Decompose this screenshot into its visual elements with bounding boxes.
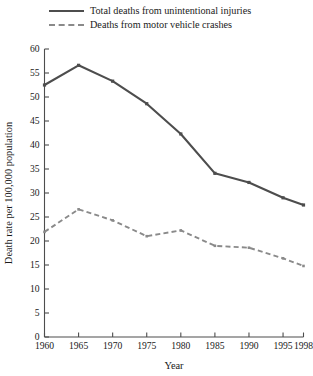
data-point-marker xyxy=(43,83,46,86)
y-tick-label: 45 xyxy=(30,115,40,126)
y-axis-title: Death rate per 100,000 population xyxy=(3,121,14,264)
line-chart-plot: 051015202530354045505560 196019651970197… xyxy=(0,0,313,376)
y-tick-label: 10 xyxy=(30,283,40,294)
data-point-marker xyxy=(302,203,305,206)
y-tick-label: 60 xyxy=(30,43,40,54)
data-line-total-deaths xyxy=(45,65,304,205)
data-point-marker xyxy=(302,265,305,268)
y-tick-label: 20 xyxy=(30,235,40,246)
y-tick-label: 35 xyxy=(30,163,40,174)
y-tick-label: 25 xyxy=(30,211,40,222)
data-point-marker xyxy=(213,172,216,175)
x-tick-label: 1998 xyxy=(294,340,313,351)
x-tick-label: 1960 xyxy=(35,340,54,351)
data-point-marker xyxy=(281,196,284,199)
x-tick-label: 1985 xyxy=(205,340,224,351)
data-point-marker xyxy=(247,181,250,184)
data-point-marker xyxy=(43,231,46,234)
y-tick-label: 40 xyxy=(30,139,40,150)
chart-figure: Total deaths from unintentional injuries… xyxy=(0,0,313,376)
data-point-marker xyxy=(179,132,182,135)
data-point-marker xyxy=(111,80,114,83)
x-tick-label: 1965 xyxy=(69,340,88,351)
y-axis-ticks: 051015202530354045505560 xyxy=(30,43,49,342)
y-tick-label: 5 xyxy=(35,307,40,318)
data-point-marker xyxy=(77,208,80,211)
x-axis-title: Year xyxy=(164,360,184,371)
data-point-marker xyxy=(282,257,285,260)
data-point-marker xyxy=(214,245,217,248)
data-point-marker xyxy=(145,235,148,238)
x-tick-label: 1980 xyxy=(171,340,190,351)
data-point-marker xyxy=(145,102,148,105)
x-tick-label: 1990 xyxy=(239,340,258,351)
data-line-motor-vehicle-crashes xyxy=(45,209,304,266)
y-tick-label: 30 xyxy=(30,187,40,198)
data-markers-total-deaths xyxy=(43,64,305,207)
x-tick-label: 1995 xyxy=(273,340,292,351)
y-tick-label: 15 xyxy=(30,259,40,270)
data-point-marker xyxy=(180,229,183,232)
data-point-marker xyxy=(77,64,80,67)
y-tick-label: 50 xyxy=(30,91,40,102)
x-tick-label: 1975 xyxy=(137,340,156,351)
y-tick-label: 55 xyxy=(30,67,40,78)
data-point-marker xyxy=(111,219,114,222)
data-markers-motor-vehicle-crashes xyxy=(43,208,305,267)
data-point-marker xyxy=(248,246,251,249)
x-tick-label: 1970 xyxy=(103,340,122,351)
x-axis-ticks: 196019651970197519801985199019951998 xyxy=(35,333,313,351)
